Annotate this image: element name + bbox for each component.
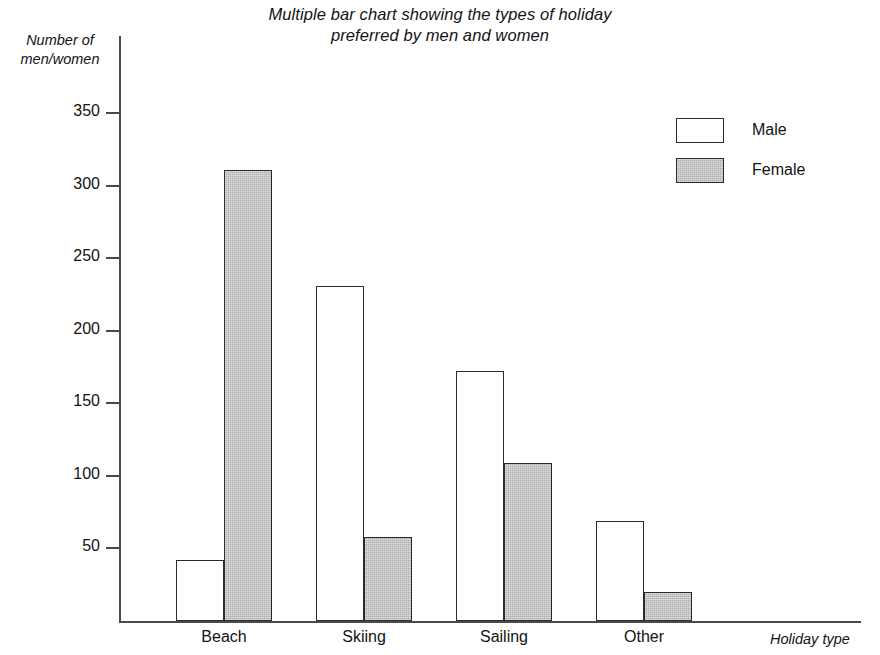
- bar-other-female: [644, 592, 692, 621]
- y-axis-tick-label: 200: [44, 320, 100, 338]
- x-axis-title: Holiday type: [770, 631, 850, 647]
- y-axis-tick: [106, 475, 120, 477]
- y-axis-tick: [106, 112, 120, 114]
- bar-other-male: [596, 521, 644, 621]
- y-axis-tick: [106, 402, 120, 404]
- bar-sailing-female: [504, 463, 552, 621]
- chart-legend: MaleFemale: [676, 110, 805, 190]
- bar-skiing-female: [364, 537, 412, 621]
- y-axis-tick-label: 300: [44, 175, 100, 193]
- y-axis-tick: [106, 330, 120, 332]
- y-axis-tick: [106, 547, 120, 549]
- y-axis-title: Number of men/women: [6, 31, 114, 69]
- bar-sailing-male: [456, 371, 504, 621]
- legend-label-male: Male: [752, 121, 787, 139]
- x-axis-label-skiing: Skiing: [304, 628, 424, 646]
- x-axis-label-beach: Beach: [164, 628, 284, 646]
- legend-label-female: Female: [752, 161, 805, 179]
- legend-swatch-female: [676, 158, 724, 183]
- y-axis-tick-label: 50: [44, 537, 100, 555]
- x-axis-label-sailing: Sailing: [444, 628, 564, 646]
- y-axis-tick: [106, 185, 120, 187]
- y-axis-tick-label: 250: [44, 247, 100, 265]
- y-axis-tick: [106, 257, 120, 259]
- legend-item-male: Male: [676, 110, 805, 150]
- legend-swatch-male: [676, 118, 724, 143]
- bar-skiing-male: [316, 286, 364, 621]
- bar-beach-female: [224, 170, 272, 621]
- bar-chart-figure: Multiple bar chart showing the types of …: [0, 0, 880, 655]
- y-axis-tick-label: 150: [44, 392, 100, 410]
- legend-item-female: Female: [676, 150, 805, 190]
- y-axis-tick-label: 100: [44, 465, 100, 483]
- x-axis-line: [119, 621, 861, 623]
- x-axis-label-other: Other: [584, 628, 704, 646]
- bar-beach-male: [176, 560, 224, 621]
- y-axis-tick-label: 350: [44, 102, 100, 120]
